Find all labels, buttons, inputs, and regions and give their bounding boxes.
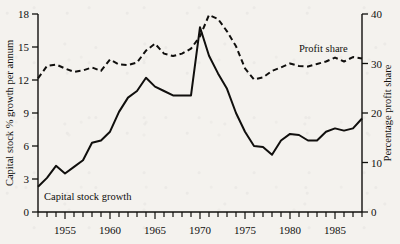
profit-share-label: Profit share <box>299 43 348 54</box>
right-tick-label: 40 <box>371 8 383 20</box>
left-tick-label: 0 <box>24 206 30 218</box>
right-tick-label: 10 <box>371 157 383 169</box>
left-tick-label: 9 <box>24 107 30 119</box>
x-tick-label: 1985 <box>324 224 347 236</box>
x-tick-label: 1960 <box>99 224 122 236</box>
left-tick-label: 18 <box>18 8 30 20</box>
x-tick-label: 1980 <box>279 224 302 236</box>
right-tick-label: 0 <box>371 206 377 218</box>
x-tick-label: 1975 <box>234 224 257 236</box>
x-tick-label: 1970 <box>189 224 212 236</box>
x-tick-label: 1955 <box>54 224 77 236</box>
left-tick-label: 3 <box>24 173 30 185</box>
x-tick-label: 1965 <box>144 224 167 236</box>
chart-figure: 0369121518 010203040 1955196019651970197… <box>0 0 400 244</box>
right-axis-title: Percentage profit share <box>382 64 393 161</box>
capital-stock-growth-label: Capital stock growth <box>44 191 132 202</box>
left-tick-label: 15 <box>18 41 30 53</box>
right-tick-label: 20 <box>371 107 383 119</box>
right-tick-label: 30 <box>371 58 383 70</box>
left-tick-label: 12 <box>18 74 29 86</box>
left-tick-label: 6 <box>24 140 30 152</box>
left-axis-title: Capital stock % growth per annum <box>4 40 15 186</box>
